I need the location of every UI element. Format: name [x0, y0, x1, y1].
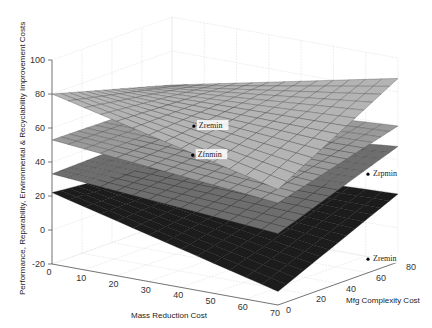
z-axis-label: Performance, Reparability, Environmental…	[18, 22, 27, 295]
y-tick-label: 60	[376, 273, 386, 283]
x-tick-label: 40	[173, 290, 183, 300]
min-point-marker	[191, 154, 194, 157]
y-tick-label: 80	[406, 262, 416, 272]
x-tick-label: 50	[205, 296, 215, 306]
min-point-marker	[366, 173, 369, 176]
z-tick-label: -20	[32, 259, 45, 269]
y-tick-label: 40	[346, 284, 356, 294]
x-tick-label: 30	[141, 285, 151, 295]
grid-line	[52, 17, 398, 60]
y-axis-label: Mfg Complexity Cost	[346, 296, 421, 305]
x-tick-label: 10	[76, 273, 86, 283]
z-tick-label: 100	[30, 55, 45, 65]
z-tick-label: 60	[35, 123, 45, 133]
y-tick-label: 0	[286, 305, 291, 315]
x-axis-label: Mass Reduction Cost	[131, 311, 208, 320]
z-tick-label: 20	[35, 191, 45, 201]
surfaces	[52, 78, 398, 291]
min-point-marker	[366, 258, 369, 261]
x-tick-label: 20	[109, 279, 119, 289]
surface-plot: -20020406080100010203040506070020406080 …	[0, 0, 432, 328]
z-tick-label: 40	[35, 157, 45, 167]
x-tick-label: 70	[270, 308, 280, 318]
z-tick-label: 0	[40, 225, 45, 235]
annotation-label: Zremin	[373, 254, 397, 263]
y-tick-label: 20	[316, 294, 326, 304]
min-point-marker	[192, 124, 195, 127]
x-tick-label: 60	[238, 302, 248, 312]
annotation-label: Zfnmin	[198, 150, 222, 159]
annotation-label: Zremin	[199, 121, 223, 130]
x-tick-label: 0	[46, 267, 51, 277]
z-tick-label: 80	[35, 89, 45, 99]
annotation-label: Zrpmin	[373, 169, 397, 178]
